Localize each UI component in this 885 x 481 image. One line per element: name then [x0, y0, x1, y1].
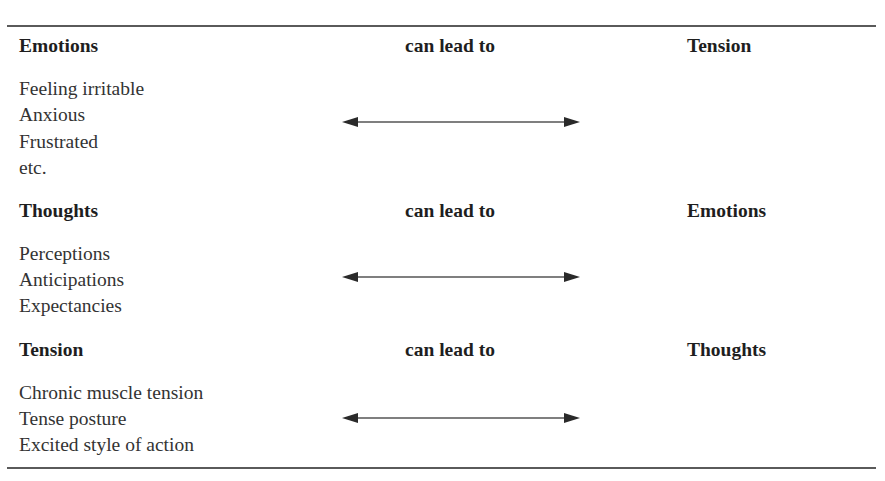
- list-item: Excited style of action: [19, 434, 194, 456]
- list-item: Feeling irritable: [19, 78, 144, 100]
- list-item: Anxious: [19, 104, 85, 126]
- table-top-rule: [7, 25, 876, 27]
- bidirectional-arrow-icon: [342, 412, 580, 424]
- section-relation-label: can lead to: [405, 339, 495, 361]
- section-source-heading: Emotions: [19, 35, 98, 57]
- table-bottom-rule: [7, 467, 876, 469]
- section-relation-label: can lead to: [405, 200, 495, 222]
- section-source-heading: Thoughts: [19, 200, 98, 222]
- list-item: Expectancies: [19, 295, 122, 317]
- bidirectional-arrow-icon: [342, 116, 580, 128]
- list-item: Perceptions: [19, 243, 110, 265]
- list-item: Frustrated: [19, 131, 98, 153]
- section-target-heading: Tension: [687, 35, 751, 57]
- bidirectional-arrow-icon: [342, 271, 580, 283]
- section-source-heading: Tension: [19, 339, 83, 361]
- section-relation-label: can lead to: [405, 35, 495, 57]
- list-item: etc.: [19, 157, 47, 179]
- section-target-heading: Emotions: [687, 200, 766, 222]
- list-item: Tense posture: [19, 408, 126, 430]
- section-target-heading: Thoughts: [687, 339, 766, 361]
- list-item: Chronic muscle tension: [19, 382, 203, 404]
- list-item: Anticipations: [19, 269, 124, 291]
